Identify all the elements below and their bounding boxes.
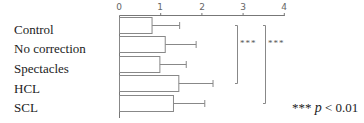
bar [120,96,174,112]
significance-marker: *** [240,38,257,48]
note-threshold: < 0.01 [322,100,359,115]
significance-marker: *** [268,38,285,48]
note-p: p [315,100,322,115]
bar [120,76,179,92]
bar [120,18,153,34]
bar [120,57,160,73]
bar [120,37,166,53]
significance-note: *** p < 0.01 [292,100,358,116]
note-stars: *** [292,100,312,115]
